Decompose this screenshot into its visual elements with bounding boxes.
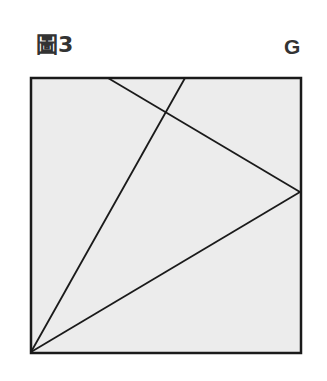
geometry-diagram	[0, 0, 327, 381]
